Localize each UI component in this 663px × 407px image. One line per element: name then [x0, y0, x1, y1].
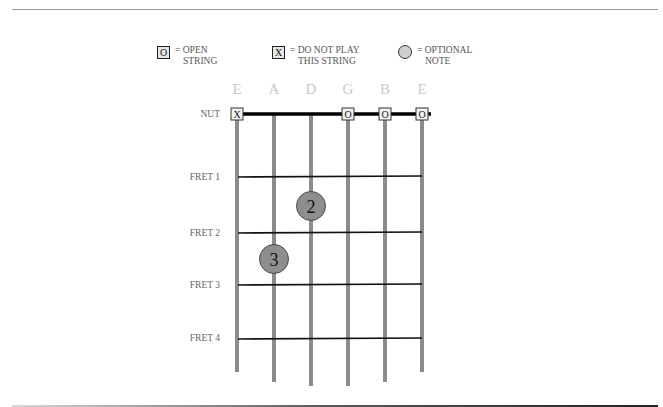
fret-3-line: [238, 284, 422, 285]
open-marker-g: O: [342, 108, 354, 120]
fret-2-line: [238, 232, 422, 233]
svg-text:3: 3: [270, 250, 279, 270]
open-marker-high-e: O: [416, 108, 428, 120]
chord-diagram: X O O O 2 3: [0, 0, 663, 407]
open-marker-b: O: [379, 108, 391, 120]
mute-marker-low-e: X: [231, 108, 243, 120]
svg-text:X: X: [233, 109, 241, 120]
svg-text:O: O: [381, 109, 388, 120]
svg-text:2: 2: [307, 197, 316, 217]
note-a-fret2: 3: [260, 245, 289, 274]
fret-1-line: [238, 176, 422, 177]
svg-text:O: O: [418, 109, 425, 120]
note-d-fret1: 2: [297, 192, 326, 221]
fret-4-line: [238, 338, 422, 339]
svg-text:O: O: [344, 109, 351, 120]
